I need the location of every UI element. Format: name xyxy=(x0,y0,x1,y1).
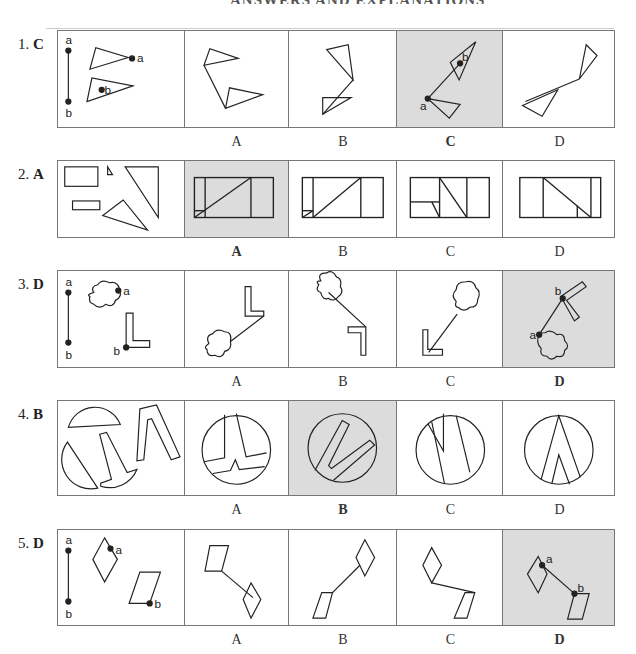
answer-key: A xyxy=(33,166,44,182)
option-label-d: D xyxy=(504,502,615,518)
svg-text:b: b xyxy=(65,348,72,361)
svg-text:a: a xyxy=(420,99,427,112)
prompt-figure: a b a b xyxy=(58,530,185,625)
figure-grid xyxy=(57,160,615,238)
option-d-figure[interactable] xyxy=(503,161,614,237)
option-d-figure[interactable]: a b xyxy=(503,530,614,625)
option-c-figure[interactable] xyxy=(397,161,504,237)
answer-key: D xyxy=(33,535,44,551)
option-label-b: B xyxy=(289,502,397,518)
option-label-c: C xyxy=(397,244,504,260)
figure-grid: a b a b xyxy=(57,529,615,626)
option-c-figure[interactable]: b a xyxy=(397,31,504,127)
answer-key: B xyxy=(33,406,43,422)
question-number: 3. D xyxy=(18,276,44,293)
option-a-figure[interactable] xyxy=(185,271,290,367)
svg-text:b: b xyxy=(462,50,469,63)
question-number: 2. A xyxy=(18,166,44,183)
option-a-figure[interactable] xyxy=(185,31,290,127)
svg-text:a: a xyxy=(115,543,122,556)
option-labels: A B C D xyxy=(57,134,615,150)
option-label-d: D xyxy=(504,244,615,260)
option-labels: A B C D xyxy=(57,244,615,260)
option-label-c: C xyxy=(397,134,504,150)
option-label-b: B xyxy=(289,374,397,390)
option-label-d: D xyxy=(504,134,615,150)
svg-text:a: a xyxy=(137,51,144,64)
option-a-figure[interactable] xyxy=(185,530,290,625)
option-label-a: A xyxy=(184,244,289,260)
option-b-figure[interactable] xyxy=(289,31,397,127)
option-b-figure[interactable] xyxy=(289,530,397,625)
option-d-figure[interactable] xyxy=(503,401,614,495)
svg-text:b: b xyxy=(555,284,562,297)
option-c-figure[interactable] xyxy=(397,271,504,367)
option-labels: A B C D xyxy=(57,502,615,518)
option-d-figure[interactable] xyxy=(503,31,614,127)
option-label-b: B xyxy=(289,134,397,150)
option-label-b: B xyxy=(289,244,397,260)
svg-text:b: b xyxy=(578,581,585,594)
option-label-a: A xyxy=(184,134,289,150)
prompt-figure xyxy=(58,401,185,495)
option-b-figure[interactable] xyxy=(289,271,397,367)
option-c-figure[interactable] xyxy=(397,401,504,495)
option-a-figure[interactable] xyxy=(185,401,290,495)
option-label-c: C xyxy=(397,502,504,518)
option-label-a: A xyxy=(184,374,289,390)
option-d-figure[interactable]: b a xyxy=(503,271,614,367)
question-number: 1. C xyxy=(18,36,44,53)
question-number: 5. D xyxy=(18,535,44,552)
figure-grid xyxy=(57,400,615,496)
figure-grid: a b a b xyxy=(57,30,615,128)
svg-text:b: b xyxy=(155,597,162,610)
svg-text:b: b xyxy=(113,344,120,357)
figure-grid: a b a b xyxy=(57,270,615,368)
option-label-d: D xyxy=(504,632,615,648)
svg-text:b: b xyxy=(65,106,72,119)
prompt-figure xyxy=(58,161,185,237)
option-label-c: C xyxy=(397,374,504,390)
option-labels: A B C D xyxy=(57,374,615,390)
option-label-d: D xyxy=(504,374,615,390)
svg-text:b: b xyxy=(105,83,112,96)
answer-key: D xyxy=(33,276,44,292)
svg-text:a: a xyxy=(65,533,72,546)
svg-text:a: a xyxy=(530,328,537,341)
option-labels: A B C D xyxy=(57,632,615,648)
question-number: 4. B xyxy=(18,406,43,423)
option-b-figure[interactable] xyxy=(289,401,397,495)
option-label-a: A xyxy=(184,502,289,518)
option-label-b: B xyxy=(289,632,397,648)
answer-key: C xyxy=(33,36,44,52)
option-label-c: C xyxy=(397,632,504,648)
svg-text:a: a xyxy=(65,275,72,288)
option-a-figure[interactable] xyxy=(185,161,290,237)
header-rule xyxy=(46,28,614,29)
prompt-figure: a b a b xyxy=(58,271,185,367)
prompt-figure: a b a b xyxy=(58,31,185,127)
option-b-figure[interactable] xyxy=(289,161,397,237)
svg-text:b: b xyxy=(65,607,72,620)
option-c-figure[interactable] xyxy=(397,530,504,625)
option-label-a: A xyxy=(184,632,289,648)
svg-text:a: a xyxy=(546,552,553,565)
page-header-fragment: ANSWERS AND EXPLANATIONS xyxy=(230,0,630,4)
svg-text:a: a xyxy=(65,33,72,46)
svg-text:a: a xyxy=(123,284,130,297)
